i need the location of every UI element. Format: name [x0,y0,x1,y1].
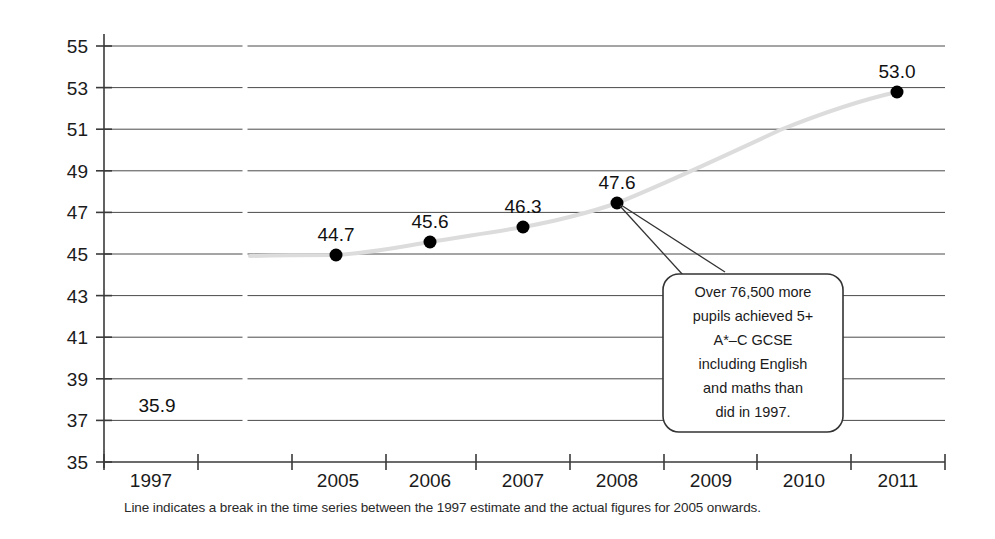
x-tick-label-2009: 2009 [690,470,732,491]
data-point-2005[interactable] [330,249,343,262]
callout-leader-left [620,206,683,275]
y-tick-label: 53 [67,78,88,99]
callout-leader-lines [620,205,725,275]
line-chart: 55 53 51 49 47 45 43 41 39 37 35 [0,0,995,539]
y-tick-label: 45 [67,244,88,265]
y-tick-label: 37 [67,410,88,431]
data-label-2011: 53.0 [879,61,916,82]
x-tick-label-2006: 2006 [409,470,451,491]
data-label-2006: 45.6 [412,211,449,232]
callout-line-5: and maths than [703,380,803,396]
y-tick-label: 41 [67,327,88,348]
y-tick-label: 43 [67,286,88,307]
y-axis-labels: 55 53 51 49 47 45 43 41 39 37 35 [67,36,88,473]
y-tick-label: 39 [67,369,88,390]
x-tick-label-2011: 2011 [878,470,919,491]
x-tick-label-2005: 2005 [317,470,359,491]
y-tick-label: 35 [67,452,88,473]
callout-line-4: including English [699,356,808,372]
data-label-2008: 47.6 [599,172,636,193]
callout-line-6: did in 1997. [716,404,791,420]
callout-line-1: Over 76,500 more [695,284,812,300]
data-label-2007: 46.3 [505,196,542,217]
data-label-2005: 44.7 [318,224,355,245]
y-tick-label: 49 [67,161,88,182]
callout-line-2: pupils achieved 5+ [693,308,814,324]
data-point-2007[interactable] [517,221,530,234]
y-tick-label: 55 [67,36,88,57]
x-axis-labels: 1997 2005 2006 2007 2008 2009 2010 2011 [130,470,919,491]
chart-container: 55 53 51 49 47 45 43 41 39 37 35 [0,0,995,539]
y-tick-label: 47 [67,202,88,223]
y-tick-label: 51 [67,119,88,140]
x-tick-label-1997: 1997 [130,470,172,491]
x-tick-label-2007: 2007 [502,470,544,491]
callout-leader-right [621,205,725,272]
data-label-1997: 35.9 [139,395,176,416]
x-tick-label-2010: 2010 [783,470,825,491]
data-point-2011[interactable] [891,86,904,99]
data-point-2006[interactable] [424,236,437,249]
x-tick-label-2008: 2008 [596,470,638,491]
chart-footnote: Line indicates a break in the time serie… [124,500,924,515]
callout-line-3: A*–C GCSE [714,332,793,348]
